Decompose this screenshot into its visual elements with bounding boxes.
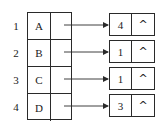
null-pointer-icon: ^ [132,14,154,35]
head-row: B [28,40,71,67]
first-edge-pointer-cell [51,40,71,66]
row-index-label: 3 [10,74,22,86]
null-pointer-icon: ^ [132,41,154,62]
null-pointer-icon: ^ [132,95,154,116]
row-index-label: 1 [10,20,22,32]
edge-node: 3 ^ [109,94,155,117]
edge-node: 1 ^ [109,40,155,63]
first-edge-pointer-cell [51,67,71,93]
adjacent-vertex-cell: 3 [110,95,132,116]
first-edge-pointer-cell [51,94,71,121]
adjacent-vertex-cell: 1 [110,68,132,89]
adjacency-list-diagram: 1 2 3 4 A B C D 4 ^ 1 ^ 1 ^ 3 ^ [0,0,168,130]
vertex-cell: B [28,40,51,66]
null-pointer-icon: ^ [132,68,154,89]
edge-node: 4 ^ [109,13,155,36]
row-index-label: 2 [10,47,22,59]
row-index-label: 4 [10,101,22,113]
first-edge-pointer-cell [51,13,71,39]
head-row: C [28,67,71,94]
vertex-cell: A [28,13,51,39]
vertex-cell: C [28,67,51,93]
adjacent-vertex-cell: 4 [110,14,132,35]
vertex-cell: D [28,94,51,121]
vertex-head-table: A B C D [27,12,72,120]
adjacent-vertex-cell: 1 [110,41,132,62]
head-row: A [28,13,71,40]
edge-node: 1 ^ [109,67,155,90]
head-row: D [28,94,71,121]
